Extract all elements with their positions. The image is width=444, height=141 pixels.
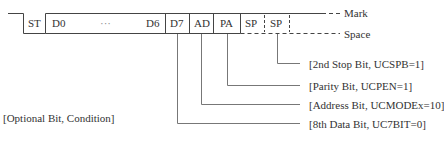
address-annotation: [Address Bit, UCMODEx=10] [309,99,444,111]
field-sp2: SP [270,17,282,29]
field-d0: D0 [52,17,65,29]
stop2-leader [278,34,301,64]
field-pa: PA [220,17,233,29]
field-sp1: SP [245,17,257,29]
space-label: Space [344,28,370,40]
address-leader [202,34,301,105]
field-st: ST [28,17,41,29]
parity-leader [228,34,301,86]
field-ellipsis: ··· [100,17,111,29]
legend-annotation: [Optional Bit, Condition] [3,112,115,124]
data8-leader [178,34,301,124]
data8-annotation: [8th Data Bit, UC7BIT=0] [309,118,426,130]
field-d6: D6 [146,17,159,29]
stop2-annotation: [2nd Stop Bit, UCSPB=1] [309,58,424,70]
field-d7: D7 [170,17,183,29]
mark-label: Mark [344,7,368,19]
parity-annotation: [Parity Bit, UCPEN=1] [309,80,412,92]
field-ad: AD [194,17,210,29]
